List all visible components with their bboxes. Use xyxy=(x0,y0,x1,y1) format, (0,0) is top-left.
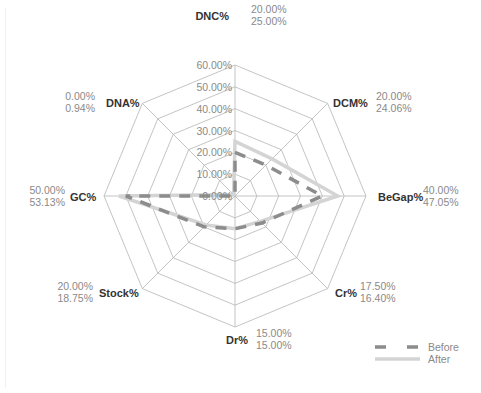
axis-labels: DNC%20.00%25.00%DCM%20.00%24.06%BeGap%40… xyxy=(29,3,458,351)
before-value-label: 50.00% xyxy=(29,184,65,196)
after-value-label: 25.00% xyxy=(251,15,287,27)
axis-label-dna: DNA% xyxy=(106,97,140,109)
before-value-label: 15.00% xyxy=(256,327,292,339)
axis-label-dr: Dr% xyxy=(226,334,248,346)
after-value-label: 15.00% xyxy=(256,339,292,351)
after-value-label: 18.75% xyxy=(57,292,93,304)
axis-label-cr: Cr% xyxy=(335,287,357,299)
radial-tick-labels: 0.00%10.00%20.00%30.00%40.00%50.00%60.00… xyxy=(196,59,232,202)
after-value-label: 24.06% xyxy=(376,102,412,114)
radial-tick-label: 50.00% xyxy=(196,81,232,93)
axis-label-dnc: DNC% xyxy=(195,10,229,22)
radar-chart: 0.00%10.00%20.00%30.00%40.00%50.00%60.00… xyxy=(0,0,481,393)
radial-tick-label: 60.00% xyxy=(196,59,232,71)
radial-tick-label: 20.00% xyxy=(196,146,232,158)
legend: BeforeAfter xyxy=(375,341,459,365)
before-value-label: 20.00% xyxy=(376,90,412,102)
after-value-label: 47.05% xyxy=(423,196,459,208)
after-value-label: 16.40% xyxy=(360,292,396,304)
after-value-label: 53.13% xyxy=(29,196,65,208)
radial-tick-label: 10.00% xyxy=(196,168,232,180)
axis-label-dcm: DCM% xyxy=(333,97,368,109)
axis-label-stock: Stock% xyxy=(99,287,139,299)
legend-before-label: Before xyxy=(428,341,459,353)
radial-tick-label: 40.00% xyxy=(196,103,232,115)
radial-tick-label: 30.00% xyxy=(196,125,232,137)
legend-after-label: After xyxy=(428,353,451,365)
axis-label-gc: GC% xyxy=(70,191,97,203)
radial-tick-label: 0.00% xyxy=(202,190,232,202)
grid-spoke xyxy=(235,196,328,289)
before-value-label: 20.00% xyxy=(57,280,93,292)
before-value-label: 20.00% xyxy=(251,3,287,15)
before-value-label: 0.00% xyxy=(65,90,95,102)
before-value-label: 40.00% xyxy=(423,184,459,196)
axis-label-begap: BeGap% xyxy=(378,191,423,203)
before-value-label: 17.50% xyxy=(360,280,396,292)
after-value-label: 0.94% xyxy=(65,102,95,114)
